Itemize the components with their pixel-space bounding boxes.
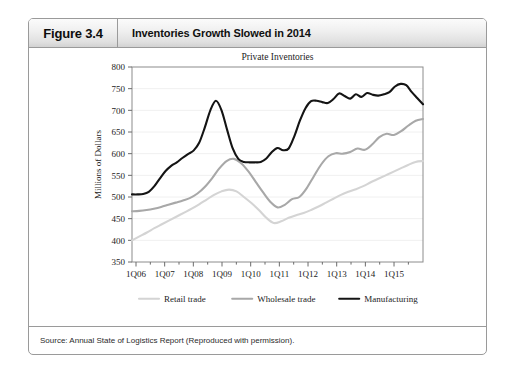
y-tick-label: 400 (112, 236, 126, 246)
figure-box: Figure 3.4 Inventories Growth Slowed in … (28, 18, 487, 355)
x-tick-label: 1Q14 (355, 269, 375, 279)
y-tick-label: 350 (112, 257, 126, 267)
chart-series-group (132, 84, 423, 241)
x-tick-label: 1Q10 (241, 269, 261, 279)
figure-header: Figure 3.4 Inventories Growth Slowed in … (29, 19, 486, 48)
legend-label: Wholesale trade (257, 294, 315, 304)
x-tick-label: 1Q07 (155, 269, 175, 279)
x-tick-label: 1Q06 (126, 269, 146, 279)
y-tick-label: 550 (112, 171, 126, 181)
chart-text-labels: Private InventoriesMillions of Dollars (93, 52, 314, 199)
legend-label: Manufacturing (364, 294, 418, 304)
y-tick-label: 700 (112, 106, 126, 116)
y-tick-label: 800 (112, 62, 126, 72)
figure-body: 350400450500550600650700750800 1Q061Q071… (29, 48, 486, 326)
x-tick-label: 1Q15 (384, 269, 404, 279)
figure-number-label: Figure 3.4 (29, 26, 117, 41)
x-tick-label: 1Q13 (327, 269, 347, 279)
series-line-retail-trade (132, 161, 423, 240)
x-tick-label: 1Q08 (183, 269, 203, 279)
y-tick-label: 450 (112, 214, 126, 224)
y-axis-ticks: 350400450500550600650700750800 (112, 62, 133, 267)
y-tick-label: 500 (112, 192, 126, 202)
private-inventories-line-chart: 350400450500550600650700750800 1Q061Q071… (29, 48, 486, 326)
y-axis-title: Millions of Dollars (93, 130, 103, 199)
y-tick-label: 750 (112, 84, 126, 94)
y-tick-label: 600 (112, 149, 126, 159)
y-tick-label: 650 (112, 127, 126, 137)
figure-footer: Source: Annual State of Logistics Report… (29, 326, 486, 354)
x-tick-label: 1Q12 (298, 269, 318, 279)
x-tick-label: 1Q09 (212, 269, 232, 279)
legend-label: Retail trade (164, 294, 206, 304)
figure-title: Inventories Growth Slowed in 2014 (118, 27, 311, 39)
x-axis-ticks: 1Q061Q071Q081Q091Q101Q111Q121Q131Q141Q15 (126, 262, 408, 279)
chart-legend: Retail tradeWholesale tradeManufacturing (139, 294, 418, 304)
x-tick-label: 1Q11 (270, 269, 290, 279)
source-note: Source: Annual State of Logistics Report… (29, 336, 294, 345)
chart-title: Private Inventories (241, 52, 313, 62)
